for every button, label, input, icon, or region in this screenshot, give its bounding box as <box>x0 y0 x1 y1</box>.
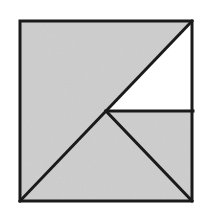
dissected-square-figure <box>0 0 209 217</box>
figure-root: A square outlined in black, filled light… <box>0 0 209 217</box>
